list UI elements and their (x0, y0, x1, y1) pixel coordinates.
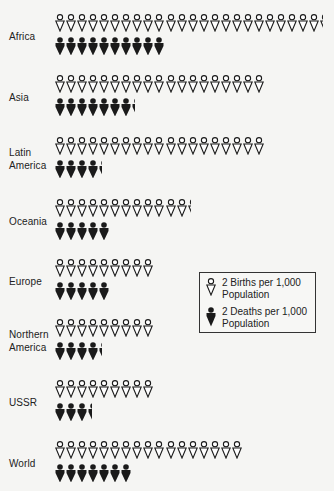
birth-person-icon (166, 199, 176, 217)
legend-deaths-line1: 2 Deaths per 1,000 (222, 306, 314, 318)
birth-person-icon (88, 137, 98, 155)
legend-deaths-text: 2 Deaths per 1,000 Population (222, 306, 314, 330)
birth-person-icon (121, 259, 131, 277)
birth-person-icon (265, 14, 275, 32)
death-person-icon (77, 464, 87, 482)
birth-person-icon (77, 259, 87, 277)
birth-person-icon (121, 199, 131, 217)
birth-person-icon (110, 137, 120, 155)
birth-person-icon (154, 75, 164, 93)
birth-person-icon (110, 199, 120, 217)
region-label: USSR (9, 396, 37, 409)
birth-person-icon (99, 75, 109, 93)
birth-person-icon (154, 199, 164, 217)
birth-person-icon (243, 14, 253, 32)
birth-person-icon (210, 14, 220, 32)
birth-person-icon (166, 441, 176, 459)
birth-person-icon (77, 441, 87, 459)
region-label-line: America (9, 341, 49, 354)
birth-person-icon (66, 137, 76, 155)
birth-person-icon (177, 441, 187, 459)
birth-person-icon (88, 199, 98, 217)
birth-person-icon (121, 441, 131, 459)
birth-person-icon (177, 199, 187, 217)
birth-person-icon (121, 75, 131, 93)
death-person-icon (121, 37, 131, 55)
birth-person-icon (121, 319, 131, 337)
death-person-icon (55, 160, 65, 178)
death-person-icon (88, 37, 98, 55)
death-person-icon (154, 37, 164, 55)
birth-person-icon (188, 441, 198, 459)
birth-person-icon (110, 380, 120, 398)
region-label: Europe (9, 275, 42, 288)
birth-person-icon (99, 319, 109, 337)
death-person-icon (55, 464, 65, 482)
region-label: LatinAmerica (9, 146, 46, 172)
region-label: Africa (9, 30, 35, 43)
legend-death-icon (206, 307, 216, 331)
death-person-icon (66, 160, 76, 178)
birth-person-icon (210, 137, 220, 155)
legend-birth-icon (206, 278, 216, 300)
death-person-icon (99, 222, 109, 240)
birth-person-icon (166, 137, 176, 155)
birth-person-icon (77, 199, 87, 217)
birth-person-icon (88, 14, 98, 32)
birth-person-icon (210, 75, 220, 93)
death-person-icon (77, 222, 87, 240)
birth-person-icon (110, 441, 120, 459)
birth-person-icon (121, 14, 131, 32)
legend: 2 Births per 1,000 Population 2 Deaths p… (199, 272, 316, 333)
legend-deaths-line2: Population (222, 318, 314, 330)
birth-person-icon (132, 259, 142, 277)
partial-death-person-icon (99, 160, 102, 178)
legend-births-line1: 2 Births per 1,000 (222, 277, 314, 289)
birth-person-icon (88, 75, 98, 93)
birth-person-icon (154, 137, 164, 155)
death-person-icon (77, 403, 87, 421)
birth-person-icon (77, 75, 87, 93)
birth-person-icon (232, 75, 242, 93)
partial-death-person-icon (88, 403, 92, 421)
partial-death-person-icon (132, 98, 135, 116)
birth-person-icon (287, 14, 297, 32)
birth-person-icon (99, 137, 109, 155)
birth-person-icon (88, 441, 98, 459)
birth-person-icon (121, 137, 131, 155)
region-label: NorthernAmerica (9, 328, 49, 354)
region-label: World (9, 457, 35, 470)
birth-person-icon (55, 199, 65, 217)
birth-person-icon (132, 199, 142, 217)
birth-person-icon (143, 441, 153, 459)
birth-person-icon (110, 14, 120, 32)
death-person-icon (77, 342, 87, 360)
birth-person-icon (99, 199, 109, 217)
birth-person-icon (221, 75, 231, 93)
birth-person-icon (88, 259, 98, 277)
death-person-icon (55, 403, 65, 421)
death-person-icon (55, 342, 65, 360)
birth-person-icon (77, 137, 87, 155)
birth-person-icon (232, 441, 242, 459)
birth-person-icon (143, 14, 153, 32)
birth-person-icon (66, 380, 76, 398)
region-label: Oceania (9, 215, 47, 228)
birth-person-icon (55, 14, 65, 32)
birth-person-icon (199, 14, 209, 32)
death-person-icon (55, 222, 65, 240)
region-label-line: Northern (9, 328, 49, 341)
region-label-line: Oceania (9, 215, 47, 228)
death-person-icon (88, 464, 98, 482)
birth-person-icon (66, 441, 76, 459)
birth-person-icon (154, 441, 164, 459)
birth-person-icon (121, 380, 131, 398)
partial-birth-person-icon (320, 14, 323, 32)
partial-birth-person-icon (188, 199, 191, 217)
death-person-icon (88, 98, 98, 116)
birth-person-icon (177, 137, 187, 155)
death-person-icon (66, 98, 76, 116)
birth-person-icon (99, 259, 109, 277)
birth-person-icon (55, 137, 65, 155)
birth-person-icon (110, 75, 120, 93)
